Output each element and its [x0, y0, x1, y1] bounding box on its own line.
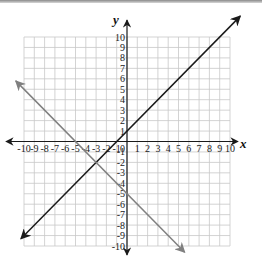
x-tick-label: 8 [207, 143, 212, 154]
y-tick-label: -8 [117, 220, 125, 231]
x-tick-label: -9 [30, 143, 38, 154]
origin-label: 0 [120, 143, 125, 154]
x-tick-label: 10 [225, 143, 235, 154]
x-tick-label: 9 [217, 143, 222, 154]
x-tick-label: 1 [135, 143, 140, 154]
x-tick-label: -6 [61, 143, 69, 154]
coordinate-plane: -10-9-8-7-6-5-4-3-2-11234567891010987654… [0, 0, 262, 259]
y-tick-label: -9 [117, 230, 125, 241]
y-tick-label: -6 [117, 199, 125, 210]
x-tick-label: 4 [166, 143, 171, 154]
y-tick-label: -2 [117, 157, 125, 168]
x-tick-label: -10 [17, 143, 30, 154]
y-tick-label: 9 [120, 42, 125, 53]
x-axis-label: x [239, 136, 247, 151]
y-tick-label: 8 [120, 52, 125, 63]
line-black [21, 16, 240, 239]
y-tick-label: 2 [120, 115, 125, 126]
x-tick-label: -3 [92, 143, 100, 154]
y-tick-label: -7 [117, 209, 125, 220]
y-axis-label: y [111, 12, 119, 27]
plotted-lines [16, 16, 241, 252]
line-gray [16, 81, 185, 252]
y-tick-label: 7 [120, 63, 125, 74]
y-tick-label: -10 [112, 241, 125, 252]
x-tick-label: -7 [51, 143, 59, 154]
x-tick-label: 7 [197, 143, 202, 154]
x-tick-label: 5 [176, 143, 181, 154]
x-tick-label: 6 [186, 143, 191, 154]
y-tick-label: 4 [120, 94, 125, 105]
x-tick-label: 2 [145, 143, 150, 154]
y-tick-label: 10 [115, 32, 125, 43]
y-tick-label: -3 [117, 167, 125, 178]
x-tick-label: -8 [40, 143, 48, 154]
x-tick-label: 3 [155, 143, 160, 154]
y-tick-label: 5 [120, 84, 125, 95]
y-tick-label: 6 [120, 73, 125, 84]
y-tick-label: 3 [120, 105, 125, 116]
